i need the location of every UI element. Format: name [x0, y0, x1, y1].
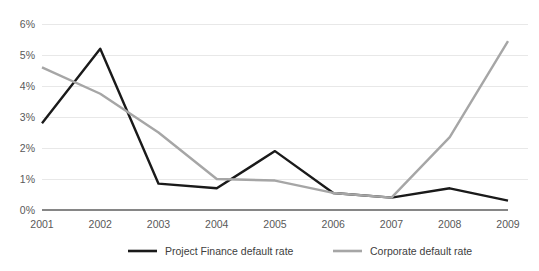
x-axis-tick-label: 2006 [322, 218, 346, 230]
x-axis-tick-label: 2005 [263, 218, 287, 230]
x-axis-tick-label: 2001 [30, 218, 54, 230]
y-axis-tick-label: 4% [20, 80, 35, 92]
legend-label: Corporate default rate [370, 245, 472, 257]
x-axis-tick-label: 2004 [205, 218, 229, 230]
x-axis-tick-labels: 200120022003200420052006200720082009 [30, 218, 520, 230]
series-group [42, 41, 508, 201]
x-axis-tick-label: 2003 [147, 218, 171, 230]
series-line [42, 41, 508, 198]
gridlines-group [42, 24, 528, 179]
x-axis-tick-label: 2008 [438, 218, 462, 230]
x-axis-tick-label: 2002 [89, 218, 113, 230]
legend: Project Finance default rateCorporate de… [128, 245, 472, 257]
y-axis-tick-labels: 0%1%2%3%4%5%6% [20, 18, 35, 216]
x-axis-tick-label: 2007 [380, 218, 404, 230]
y-axis-tick-label: 2% [20, 142, 35, 154]
y-axis-tick-label: 3% [20, 111, 35, 123]
legend-label: Project Finance default rate [165, 245, 294, 257]
y-axis-tick-label: 1% [20, 173, 35, 185]
x-axis-tick-label: 2009 [496, 218, 520, 230]
default-rate-line-chart: 0%1%2%3%4%5%6% 2001200220032004200520062… [0, 0, 539, 271]
y-axis-tick-label: 6% [20, 18, 35, 30]
y-axis-tick-label: 5% [20, 49, 35, 61]
chart-canvas: 0%1%2%3%4%5%6% 2001200220032004200520062… [0, 0, 539, 271]
series-line [42, 49, 508, 201]
y-axis-tick-label: 0% [20, 204, 35, 216]
